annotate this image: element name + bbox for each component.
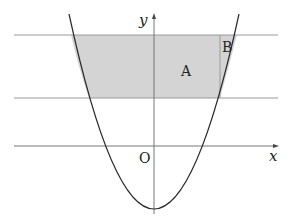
region-b-label: B: [222, 39, 232, 55]
region-a-label: A: [180, 63, 192, 79]
y-axis-label: y: [138, 11, 148, 29]
origin-label: O: [139, 150, 150, 166]
x-axis-label: x: [269, 147, 278, 165]
y-axis-arrow-icon: [152, 13, 156, 19]
parabola-diagram: y x O A B: [0, 0, 292, 223]
